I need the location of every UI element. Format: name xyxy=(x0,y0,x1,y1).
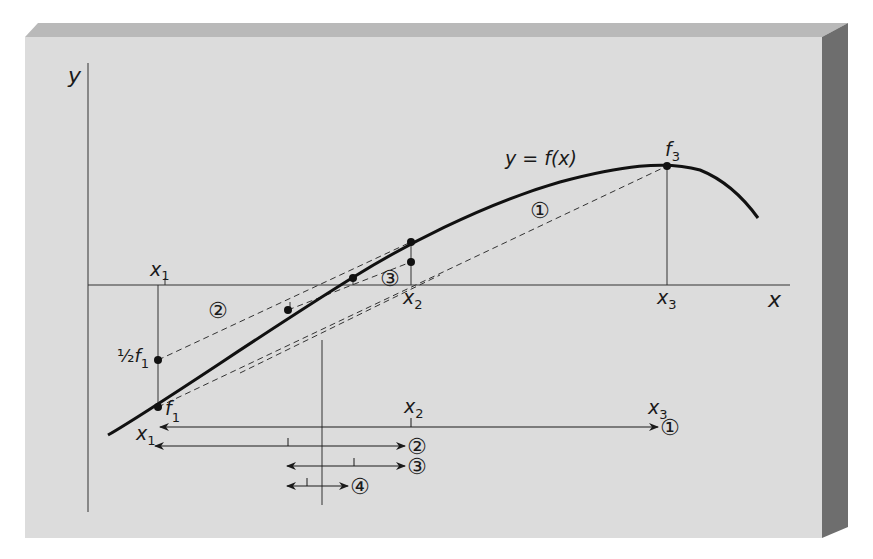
curve-label: y = f(x) xyxy=(504,147,577,169)
point-f1 xyxy=(154,403,162,411)
point-b xyxy=(349,274,357,282)
interval-marker-1: ① xyxy=(660,415,680,440)
point-f3 xyxy=(663,162,671,170)
panel xyxy=(25,23,848,538)
successive-interpolation-diagram: y x y = f(x) f3 f1 ½f1 x1 x2 x3 ① ② xyxy=(0,0,873,559)
point-a xyxy=(284,306,292,314)
panel-top-bevel xyxy=(25,23,848,37)
point-half-f1 xyxy=(154,356,162,364)
interval-marker-4: ④ xyxy=(350,474,370,499)
region-marker-2: ② xyxy=(208,298,228,323)
point-c xyxy=(407,238,415,246)
region-marker-1: ① xyxy=(530,198,550,223)
x-axis-label: x xyxy=(767,287,782,312)
region-marker-3: ③ xyxy=(380,266,400,291)
panel-side-bevel xyxy=(822,23,848,538)
interval-marker-3: ③ xyxy=(407,454,427,479)
point-d xyxy=(407,258,415,266)
y-axis-label: y xyxy=(67,63,82,88)
